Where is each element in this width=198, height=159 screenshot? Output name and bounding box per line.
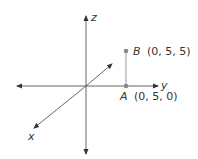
point-a bbox=[124, 84, 129, 89]
point-b-name: B bbox=[133, 45, 141, 58]
point-a-coords: (0, 5, 0) bbox=[134, 90, 178, 103]
point-b-coords: (0, 5, 5) bbox=[147, 45, 191, 58]
point-a-label: A (0, 5, 0) bbox=[119, 90, 178, 103]
x-axis-label: x bbox=[27, 130, 35, 143]
point-b-label: B (0, 5, 5) bbox=[133, 45, 191, 58]
point-b bbox=[124, 49, 129, 54]
coordinate-diagram: z y x B (0, 5, 5) A (0, 5, 0) bbox=[0, 0, 198, 159]
z-axis-label: z bbox=[90, 11, 97, 24]
x-axis bbox=[34, 86, 86, 128]
point-a-name: A bbox=[119, 90, 128, 103]
negative-x-axis bbox=[86, 64, 112, 86]
